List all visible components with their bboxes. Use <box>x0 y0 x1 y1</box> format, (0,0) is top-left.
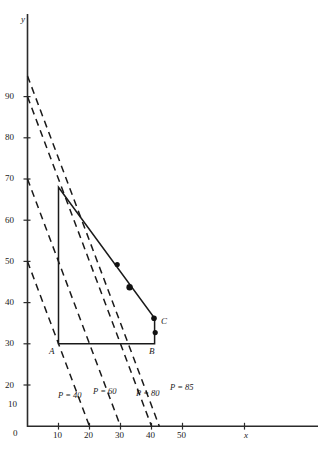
isoprofit-line-p85 <box>28 76 160 426</box>
isoprofit-label-p40: P = 40 <box>58 390 82 400</box>
marker-middle <box>126 284 132 290</box>
isoprofit-line-p80 <box>28 97 152 427</box>
y-tick-label-90: 90 <box>5 91 14 101</box>
x-tick-label-50: 50 <box>177 430 186 440</box>
x-tick-label-40: 40 <box>146 430 155 440</box>
y-tick-label-70: 70 <box>5 173 14 183</box>
x-tick-label-20: 20 <box>84 430 93 440</box>
y-tick-label-20: 20 <box>5 380 14 390</box>
y-tick-label-60: 60 <box>5 215 14 225</box>
x-tick-label-30: 30 <box>115 430 124 440</box>
isoprofit-label-p80: P = 80 <box>136 388 160 398</box>
y-tick-label-80: 80 <box>5 132 14 142</box>
vertex-label-c: C <box>161 316 167 326</box>
marker-upper <box>115 262 120 267</box>
y-tick-label-0: 0 <box>13 428 18 438</box>
y-tick-label-10: 10 <box>8 399 17 409</box>
y-tick-label-50: 50 <box>5 256 14 266</box>
y-axis-label: y <box>21 14 25 24</box>
isoprofit-label-p85: P = 85 <box>170 382 194 392</box>
linear-programming-graph: 90 80 70 60 50 40 30 20 10 0 10 20 30 40… <box>0 0 325 457</box>
vertex-label-b: B <box>149 346 155 356</box>
y-tick-label-30: 30 <box>5 338 14 348</box>
marker-c <box>151 315 157 321</box>
plot-canvas <box>0 0 325 457</box>
marker-b <box>153 330 158 335</box>
isoprofit-label-p60: P = 60 <box>93 386 117 396</box>
feasible-region-polygon <box>59 187 155 344</box>
x-axis-label: x <box>244 430 248 440</box>
vertex-label-a: A <box>49 346 55 356</box>
y-tick-label-40: 40 <box>5 297 14 307</box>
x-tick-label-10: 10 <box>53 430 62 440</box>
